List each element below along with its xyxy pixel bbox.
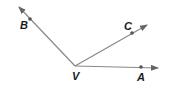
label-a: A xyxy=(136,71,145,83)
label-c: C xyxy=(124,20,133,32)
ray-vb xyxy=(19,7,75,66)
label-v: V xyxy=(72,70,81,82)
point-b xyxy=(28,17,32,21)
point-a xyxy=(139,65,143,69)
ray-vc xyxy=(75,25,147,66)
ray-va xyxy=(75,65,158,69)
angle-diagram: B C V A xyxy=(0,0,169,89)
label-b: B xyxy=(20,19,28,31)
